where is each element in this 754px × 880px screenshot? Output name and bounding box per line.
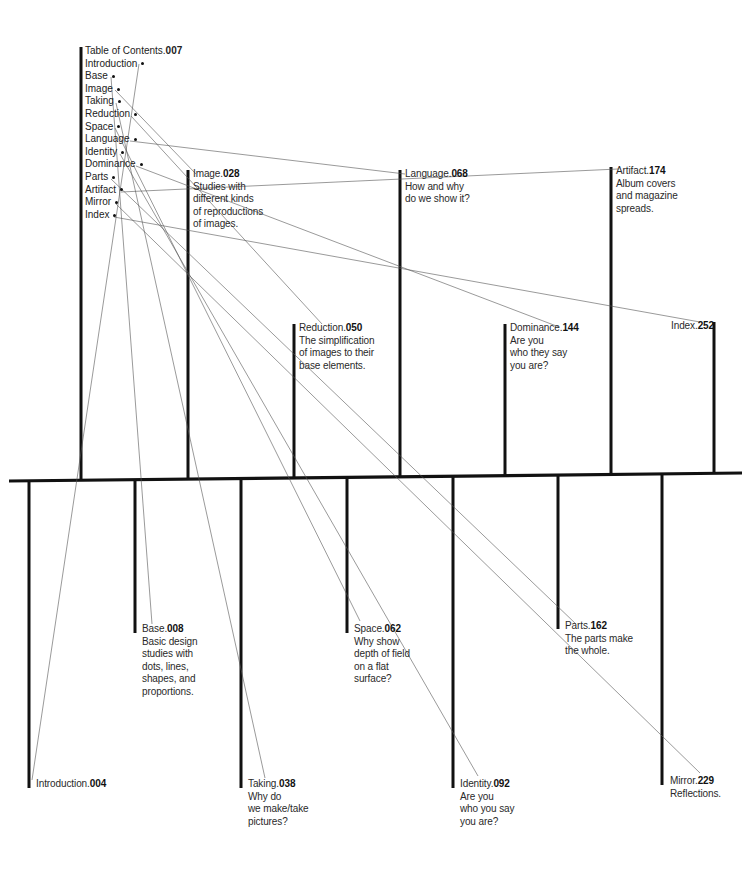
toc-item-mirror[interactable]: Mirror (85, 196, 182, 209)
entry-index: Index.252 (671, 320, 714, 333)
toc-item-language[interactable]: Language (85, 133, 182, 146)
entry-taking: Taking.038 Why do we make/take pictures? (248, 778, 309, 828)
bullet-icon (134, 138, 137, 141)
toc-item-reduction[interactable]: Reduction (85, 108, 182, 121)
toc-item-identity[interactable]: Identity (85, 146, 182, 159)
entry-artifact: Artifact.174 Album covers and magazine s… (616, 165, 678, 215)
bullet-icon (120, 188, 123, 191)
bullet-icon (118, 100, 121, 103)
entry-language: Language.068 How and why do we show it? (405, 168, 470, 206)
toc-title: Table of Contents.007 (85, 45, 182, 58)
bullet-icon (113, 214, 116, 217)
bullet-icon (140, 163, 143, 166)
toc-item-taking[interactable]: Taking (85, 95, 182, 108)
entry-introduction: Introduction.004 (36, 778, 106, 791)
bullet-icon (112, 75, 115, 78)
toc-item-image[interactable]: Image (85, 83, 182, 96)
bullet-icon (141, 62, 144, 65)
bullet-icon (117, 88, 120, 91)
bullet-icon (115, 201, 118, 204)
entry-reduction: Reduction.050 The simplification of imag… (299, 322, 374, 372)
toc-item-dominance[interactable]: Dominance (85, 158, 182, 171)
table-of-contents: Table of Contents.007 Introduction Base … (85, 45, 182, 221)
bullet-icon (112, 176, 115, 179)
entry-base: Base.008 Basic design studies with dots,… (142, 623, 198, 699)
toc-item-introduction[interactable]: Introduction (85, 58, 182, 71)
bullet-icon (121, 151, 124, 154)
bullet-icon (134, 113, 137, 116)
entry-parts: Parts.162 The parts make the whole. (565, 620, 633, 658)
entry-mirror: Mirror.229 Reflections. (670, 775, 721, 800)
toc-item-parts[interactable]: Parts (85, 171, 182, 184)
toc-item-index[interactable]: Index (85, 209, 182, 222)
toc-item-artifact[interactable]: Artifact (85, 184, 182, 197)
bullet-icon (117, 125, 120, 128)
toc-item-base[interactable]: Base (85, 70, 182, 83)
entry-space: Space.062 Why show depth of field on a f… (354, 623, 410, 686)
entry-identity: Identity.092 Are you who you say you are… (460, 778, 515, 828)
toc-item-space[interactable]: Space (85, 121, 182, 134)
entry-dominance: Dominance.144 Are you who they say you a… (510, 322, 579, 372)
timeline-baseline (9, 473, 742, 481)
entry-image: Image.028 Studies with different kinds o… (193, 168, 263, 231)
